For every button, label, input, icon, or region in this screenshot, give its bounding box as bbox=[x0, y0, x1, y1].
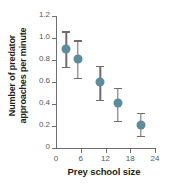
x-tick-label: 24 bbox=[151, 154, 160, 163]
error-bar-cap-lower bbox=[62, 67, 70, 68]
y-tick: 1.0 bbox=[52, 38, 56, 39]
y-tick-label: 0.4 bbox=[39, 98, 50, 107]
y-tick: 0 bbox=[52, 148, 56, 149]
y-tick-label: 0.2 bbox=[39, 120, 50, 129]
y-tick-label: 0 bbox=[46, 142, 50, 151]
error-bar-cap-upper bbox=[96, 66, 104, 67]
data-point bbox=[62, 45, 71, 54]
y-tick: 0.6 bbox=[52, 82, 56, 83]
error-bar-cap-lower bbox=[114, 121, 122, 122]
error-bar-cap-upper bbox=[137, 113, 145, 114]
y-tick-label: 0.8 bbox=[39, 54, 50, 63]
x-tick bbox=[130, 149, 131, 153]
x-axis-title: Prey school size bbox=[36, 166, 172, 177]
y-tick: 0.4 bbox=[52, 104, 56, 105]
data-point bbox=[96, 78, 105, 87]
x-tick bbox=[81, 149, 82, 153]
y-tick: 0.8 bbox=[52, 60, 56, 61]
x-tick-label: 6 bbox=[79, 154, 83, 163]
chart-figure: Number of predator approaches per minute… bbox=[0, 0, 172, 192]
error-bar-cap-lower bbox=[137, 136, 145, 137]
error-bar-cap-upper bbox=[62, 31, 70, 32]
error-bar-cap-upper bbox=[74, 40, 82, 41]
y-axis-title-line-1: Number of predator bbox=[8, 27, 19, 123]
x-tick bbox=[106, 149, 107, 153]
y-axis-title: Number of predator approaches per minute bbox=[0, 0, 36, 150]
y-tick: 1.2 bbox=[52, 16, 56, 17]
x-tick-label: 0 bbox=[54, 154, 58, 163]
y-axis-line bbox=[56, 16, 57, 149]
y-tick-label: 1.2 bbox=[39, 10, 50, 19]
x-tick-label: 18 bbox=[126, 154, 135, 163]
error-bar-cap-lower bbox=[74, 78, 82, 79]
data-point bbox=[136, 120, 145, 129]
x-tick bbox=[155, 149, 156, 153]
y-tick-label: 0.6 bbox=[39, 76, 50, 85]
data-point bbox=[113, 98, 122, 107]
plot-area: 00.20.40.60.81.01.2 06121824 bbox=[56, 16, 155, 148]
error-bar-cap-lower bbox=[96, 100, 104, 101]
y-axis-title-line-2: approaches per minute bbox=[18, 27, 29, 123]
data-point bbox=[73, 54, 82, 63]
y-tick-label: 1.0 bbox=[39, 32, 50, 41]
x-tick-label: 12 bbox=[101, 154, 110, 163]
y-tick: 0.2 bbox=[52, 126, 56, 127]
error-bar-cap-upper bbox=[114, 88, 122, 89]
